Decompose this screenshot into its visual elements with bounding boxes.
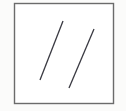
square-border [15, 4, 114, 104]
figure-svg [0, 0, 126, 111]
figure-canvas: Two parallel diagonal line segments insi… [0, 0, 126, 111]
